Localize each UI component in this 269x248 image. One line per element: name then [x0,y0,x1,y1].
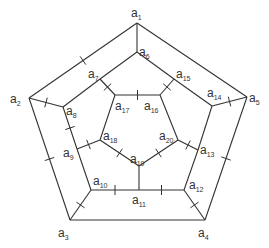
tick-mark-icon [156,149,162,157]
tick-mark-icon [80,56,86,64]
vertex-label-subscript: 5 [256,99,260,106]
vertex-label-a1: a1 [131,6,142,21]
edge-a9-a10 [77,149,91,190]
vertex-label-a9: a9 [63,146,74,161]
vertex-label-subscript: 2 [17,100,21,107]
vertex-label-a20: a20 [159,129,174,144]
vertex-label-subscript: 8 [73,112,77,119]
dodecahedron-graph-diagram: a1a2a3a4a5a6a7a8a9a10a11a12a13a14a15a16a… [0,0,269,248]
vertex-label-a12: a12 [189,178,204,193]
vertex-label-subscript: 6 [146,53,150,60]
tick-mark-icon [186,141,190,150]
vertex-label-subscript: 9 [70,154,74,161]
vertex-label-a19: a19 [130,152,145,167]
vertex-label-a17: a17 [115,99,130,114]
vertex-label-subscript: 7 [95,75,99,82]
vertex-label-a5: a5 [249,91,260,106]
vertex-label-subscript: 20 [166,137,174,144]
vertex-label-a15: a15 [176,67,191,82]
vertex-label-subscript: 16 [151,107,159,114]
vertex-label-a13: a13 [200,143,215,158]
tick-mark-icon [190,202,198,208]
vertex-label-a14: a14 [207,86,222,101]
tick-mark-icon [76,202,84,208]
edge-a7-a8 [63,79,100,107]
vertex-label-subscript: 10 [100,182,108,189]
vertex-label-subscript: 4 [205,234,209,241]
vertex-label-subscript: 1 [138,14,142,21]
vertex-label-a6: a6 [139,45,150,60]
vertex-label-a11: a11 [132,193,146,208]
vertex-label-a2: a2 [10,92,21,107]
vertex-label-a8: a8 [66,104,77,119]
tick-mark-icon [117,149,123,157]
vertex-label-a3: a3 [58,226,69,241]
vertex-label-subscript: 13 [207,151,215,158]
vertex-label-subscript: 11 [139,201,146,208]
vertex-label-subscript: 14 [214,94,222,101]
vertex-label-subscript: 18 [110,137,118,144]
graph-edges [29,23,247,220]
vertex-labels: a1a2a3a4a5a6a7a8a9a10a11a12a13a14a15a16a… [10,6,260,241]
vertex-label-a16: a16 [144,99,159,114]
vertex-label-a18: a18 [103,129,118,144]
vertex-label-subscript: 19 [137,160,145,167]
edge-a6-a7 [100,52,137,79]
vertex-label-a10: a10 [93,174,108,189]
vertex-label-subscript: 12 [196,186,204,193]
vertex-label-subscript: 3 [65,234,69,241]
vertex-label-subscript: 15 [183,75,191,82]
vertex-label-a7: a7 [88,67,99,82]
edge-a5-a1 [137,23,247,97]
vertex-label-subscript: 17 [122,107,130,114]
vertex-label-a4: a4 [198,226,209,241]
